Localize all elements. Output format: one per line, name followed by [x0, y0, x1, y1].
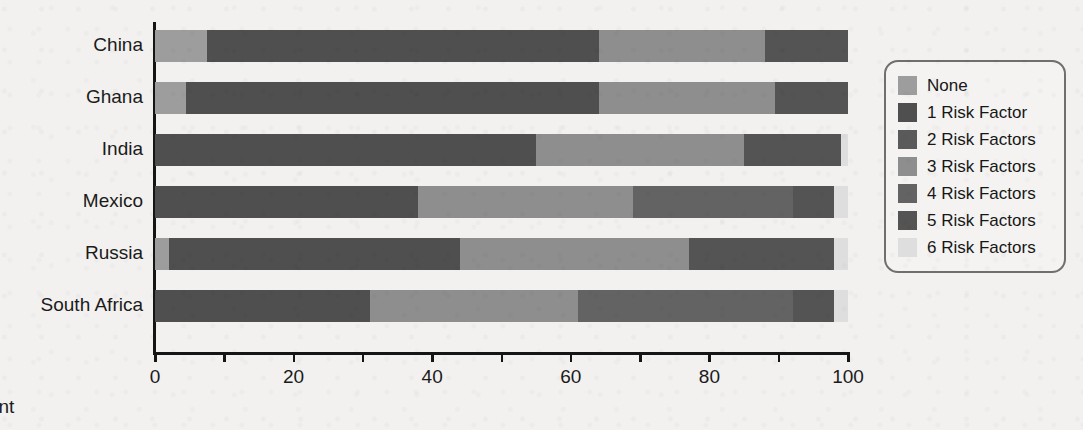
x-axis-tick [293, 352, 296, 362]
bar-segment [841, 134, 848, 166]
bar-segment [418, 186, 633, 218]
x-axis-tick-label: 100 [832, 366, 864, 388]
x-axis-tick [223, 352, 226, 362]
legend-item-label: None [927, 76, 968, 96]
bar-segment [793, 290, 835, 322]
bar-segment [834, 290, 848, 322]
y-axis-tick-label: Russia [0, 242, 143, 264]
bar-segment [834, 186, 848, 218]
legend-item-label: 3 Risk Factors [927, 157, 1036, 177]
bar-segment [155, 186, 418, 218]
legend-swatch-icon [898, 184, 917, 203]
legend-item-label: 6 Risk Factors [927, 238, 1036, 258]
x-axis-title-text: Percent [0, 396, 14, 417]
bar-segment [155, 134, 536, 166]
bar-segment [169, 238, 460, 270]
x-axis-tick [154, 352, 157, 362]
stacked-bar-chart: ChinaGhanaIndiaMexicoRussiaSouth Africa … [0, 0, 1083, 430]
bar-row [155, 238, 848, 270]
legend-item[interactable]: 4 Risk Factors [898, 180, 1054, 207]
bar-row [155, 82, 848, 114]
bar-segment [370, 290, 578, 322]
legend-item-label: 5 Risk Factors [927, 211, 1036, 231]
legend-item-label: 4 Risk Factors [927, 184, 1036, 204]
bar-segment [155, 290, 370, 322]
legend-swatch-icon [898, 76, 917, 95]
y-axis-tick-label: South Africa [0, 294, 143, 316]
legend-swatch-icon [898, 238, 917, 257]
y-axis-tick-label: India [0, 138, 143, 160]
x-axis-tick [778, 352, 781, 362]
bar-segment [460, 238, 689, 270]
legend-swatch-icon [898, 103, 917, 122]
x-axis-tick [708, 352, 711, 362]
bar-row [155, 290, 848, 322]
x-axis-tick [570, 352, 573, 362]
legend-swatch-icon [898, 211, 917, 230]
bar-segment [775, 82, 848, 114]
bar-row [155, 134, 848, 166]
legend-item[interactable]: 6 Risk Factors [898, 234, 1054, 261]
bar-segment [599, 82, 776, 114]
bar-segment [689, 238, 835, 270]
bar-segment [207, 30, 599, 62]
bar-segment [834, 238, 848, 270]
y-axis-tick-label: Ghana [0, 86, 143, 108]
x-axis-tick-label: 40 [422, 366, 443, 388]
bar-segment [536, 134, 744, 166]
legend-item-label: 2 Risk Factors [927, 130, 1036, 150]
bar-segment [155, 82, 186, 114]
legend-item[interactable]: 1 Risk Factor [898, 99, 1054, 126]
bar-segment [633, 186, 792, 218]
bar-segment [744, 134, 841, 166]
y-axis-tick-label: Mexico [0, 190, 143, 212]
legend-item[interactable]: 3 Risk Factors [898, 153, 1054, 180]
x-axis-tick-label: 0 [150, 366, 161, 388]
bar-segment [765, 30, 848, 62]
plot-area [155, 22, 848, 332]
x-axis-tick [431, 352, 434, 362]
x-axis-tick-label: 80 [699, 366, 720, 388]
x-axis-tick [639, 352, 642, 362]
legend-swatch-icon [898, 157, 917, 176]
legend-item[interactable]: 5 Risk Factors [898, 207, 1054, 234]
chart-legend: None1 Risk Factor2 Risk Factors3 Risk Fa… [884, 60, 1066, 273]
bar-segment [599, 30, 765, 62]
bar-row [155, 186, 848, 218]
bar-segment [155, 238, 169, 270]
x-axis-tick-label: 20 [283, 366, 304, 388]
x-axis-tick-label: 60 [560, 366, 581, 388]
bar-segment [578, 290, 793, 322]
legend-item[interactable]: 2 Risk Factors [898, 126, 1054, 153]
x-axis-tick [847, 352, 850, 362]
x-axis-tick [362, 352, 365, 362]
x-axis-title: Percent [0, 396, 1083, 418]
bar-segment [793, 186, 835, 218]
bar-segment [155, 30, 207, 62]
bar-row [155, 30, 848, 62]
legend-swatch-icon [898, 130, 917, 149]
legend-item[interactable]: None [898, 72, 1054, 99]
legend-item-label: 1 Risk Factor [927, 103, 1027, 123]
bar-segment [186, 82, 598, 114]
x-axis-tick [501, 352, 504, 362]
y-axis-tick-label: China [0, 34, 143, 56]
